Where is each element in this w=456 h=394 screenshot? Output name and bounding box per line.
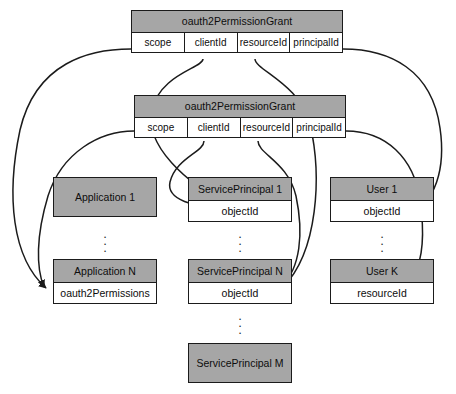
ellipsis-dot: . — [100, 244, 110, 251]
user-k-fields: resourceId — [331, 283, 433, 303]
oauth2permissiongrant-table-top[interactable]: oauth2PermissionGrant scope clientId res… — [131, 10, 343, 53]
serviceprincipal-n-fields: objectId — [189, 283, 291, 303]
entity-application-1[interactable]: Application 1 — [53, 177, 157, 217]
grant-top-fields: scope clientId resourceId principalId — [132, 33, 342, 52]
grant-second-field-resourceid[interactable]: resourceId — [241, 118, 294, 137]
application-n-field-oauth2permissions[interactable]: oauth2Permissions — [54, 283, 156, 303]
entity-serviceprincipal-n[interactable]: ServicePrincipal N objectId — [188, 259, 292, 304]
diagram-canvas: oauth2PermissionGrant scope clientId res… — [0, 0, 456, 394]
grant-top-field-clientid[interactable]: clientId — [185, 33, 238, 52]
oauth2permissiongrant-table-second[interactable]: oauth2PermissionGrant scope clientId res… — [134, 95, 346, 138]
user-k-title: User K — [331, 260, 433, 283]
edge-grant-top-resourceid-to-serviceprincipal-n — [255, 59, 316, 287]
ellipsis-applications: . . . — [100, 230, 110, 251]
ellipsis-serviceprincipals-lower: . . . — [235, 312, 245, 333]
application-n-fields: oauth2Permissions — [54, 283, 156, 303]
ellipsis-dot: . — [235, 326, 245, 333]
grant-top-title: oauth2PermissionGrant — [132, 11, 342, 33]
serviceprincipal-1-field-objectid[interactable]: objectId — [189, 201, 291, 221]
grant-top-field-principalid[interactable]: principalId — [290, 33, 342, 52]
user-1-field-objectid[interactable]: objectId — [331, 201, 433, 221]
entity-user-1[interactable]: User 1 objectId — [330, 177, 434, 222]
user-1-title: User 1 — [331, 178, 433, 201]
grant-second-title: oauth2PermissionGrant — [135, 96, 345, 118]
grant-second-field-principalid[interactable]: principalId — [293, 118, 345, 137]
serviceprincipal-m-title: ServicePrincipal M — [189, 344, 291, 382]
grant-second-field-clientid[interactable]: clientId — [188, 118, 241, 137]
entity-user-k[interactable]: User K resourceId — [330, 259, 434, 304]
ellipsis-dot: . — [377, 244, 387, 251]
user-k-field-resourceid[interactable]: resourceId — [331, 283, 433, 303]
entity-serviceprincipal-1[interactable]: ServicePrincipal 1 objectId — [188, 177, 292, 222]
ellipsis-dot: . — [235, 244, 245, 251]
entity-serviceprincipal-m[interactable]: ServicePrincipal M — [188, 343, 292, 383]
application-1-title: Application 1 — [54, 178, 156, 216]
serviceprincipal-1-title: ServicePrincipal 1 — [189, 178, 291, 201]
serviceprincipal-n-field-objectid[interactable]: objectId — [189, 283, 291, 303]
serviceprincipal-1-fields: objectId — [189, 201, 291, 221]
entity-application-n[interactable]: Application N oauth2Permissions — [53, 259, 157, 304]
ellipsis-serviceprincipals: . . . — [235, 230, 245, 251]
grant-second-fields: scope clientId resourceId principalId — [135, 118, 345, 137]
user-1-fields: objectId — [331, 201, 433, 221]
edge-grant-top-scope-to-application-n — [13, 49, 131, 288]
application-n-title: Application N — [54, 260, 156, 283]
grant-second-field-scope[interactable]: scope — [135, 118, 188, 137]
serviceprincipal-n-title: ServicePrincipal N — [189, 260, 291, 283]
grant-top-field-scope[interactable]: scope — [132, 33, 185, 52]
grant-top-field-resourceid[interactable]: resourceId — [238, 33, 291, 52]
ellipsis-users: . . . — [377, 230, 387, 251]
